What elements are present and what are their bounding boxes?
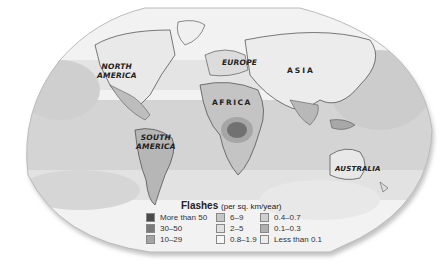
legend-label: 2–5 bbox=[230, 224, 243, 233]
legend-label: 0.1–0.3 bbox=[274, 224, 301, 233]
legend-units: (per sq. km/year) bbox=[221, 202, 281, 211]
legend-swatch bbox=[216, 213, 225, 222]
legend-item: 30–50 bbox=[146, 223, 182, 233]
legend-label: More than 50 bbox=[160, 213, 207, 222]
legend-label: 10–29 bbox=[160, 235, 182, 244]
label-south-america: SOUTH AMERICA bbox=[136, 133, 176, 151]
legend-label: 0.4–0.7 bbox=[274, 213, 301, 222]
legend-item: 6–9 bbox=[216, 212, 243, 222]
label-america: AMERICA bbox=[97, 71, 137, 80]
label-north-america: NORTH AMERICA bbox=[97, 62, 137, 80]
label-africa: AFRICA bbox=[212, 98, 252, 107]
legend-swatch bbox=[146, 213, 155, 222]
legend-item: 2–5 bbox=[216, 223, 243, 233]
legend-title-text: Flashes bbox=[181, 200, 218, 211]
label-europe: EUROPE bbox=[222, 58, 257, 67]
legend-item: 0.8–1.9 bbox=[216, 234, 257, 244]
legend-swatch bbox=[216, 224, 225, 233]
legend-swatch bbox=[260, 235, 269, 244]
legend-item: More than 50 bbox=[146, 212, 207, 222]
legend-item: 10–29 bbox=[146, 234, 182, 244]
legend-swatch bbox=[146, 235, 155, 244]
legend-label: 0.8–1.9 bbox=[230, 235, 257, 244]
legend-swatch bbox=[216, 235, 225, 244]
legend-item: 0.4–0.7 bbox=[260, 212, 301, 222]
legend-swatch bbox=[146, 224, 155, 233]
label-south: SOUTH bbox=[136, 133, 176, 142]
label-australia: AUSTRALIA bbox=[335, 165, 381, 174]
legend-item: 0.1–0.3 bbox=[260, 223, 301, 233]
label-america-south: AMERICA bbox=[136, 142, 176, 151]
legend-title: Flashes (per sq. km/year) bbox=[181, 200, 282, 211]
legend-label: 30–50 bbox=[160, 224, 182, 233]
legend-swatch bbox=[260, 224, 269, 233]
legend-label: 6–9 bbox=[230, 213, 243, 222]
label-asia: ASIA bbox=[287, 66, 315, 75]
label-north: NORTH bbox=[97, 62, 137, 71]
legend-label: Less than 0.1 bbox=[274, 235, 322, 244]
legend-swatch bbox=[260, 213, 269, 222]
legend-item: Less than 0.1 bbox=[260, 234, 322, 244]
